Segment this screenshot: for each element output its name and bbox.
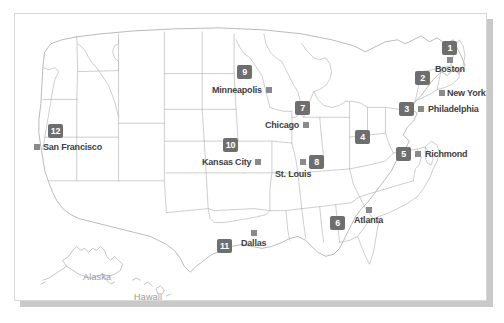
marker-badge-5[interactable]: 5 bbox=[396, 147, 411, 161]
map-marker-chicago[interactable]: 7 bbox=[295, 101, 310, 115]
map-marker-dallas-point[interactable]: Dallas bbox=[241, 230, 266, 248]
map-figure-page: 1 Boston 2 New York 3 Philadelphia 4 bbox=[0, 0, 504, 323]
map-figure-frame: 1 Boston 2 New York 3 Philadelphia 4 bbox=[14, 13, 487, 301]
map-marker-san-francisco[interactable]: 12 bbox=[48, 124, 63, 138]
city-label-st-louis: St. Louis bbox=[275, 169, 311, 179]
marker-dot-philadelphia bbox=[418, 106, 424, 112]
map-marker-philadelphia[interactable]: 3 Philadelphia bbox=[399, 102, 479, 116]
city-label-richmond: Richmond bbox=[425, 149, 467, 159]
marker-badge-6[interactable]: 6 bbox=[330, 216, 345, 230]
inset-label-alaska: Alaska bbox=[83, 272, 111, 282]
city-label-kansas-city: Kansas City bbox=[202, 157, 251, 167]
map-marker-4[interactable]: 4 bbox=[355, 130, 370, 144]
map-marker-minneapolis[interactable]: 9 bbox=[237, 65, 252, 79]
marker-dot-atlanta bbox=[366, 207, 372, 213]
marker-dot-san-francisco bbox=[34, 144, 40, 150]
city-label-new-york: New York bbox=[447, 88, 486, 98]
marker-badge-3[interactable]: 3 bbox=[399, 102, 414, 116]
marker-badge-11[interactable]: 11 bbox=[217, 239, 232, 253]
marker-badge-7[interactable]: 7 bbox=[295, 101, 310, 115]
marker-dot-new-york bbox=[439, 90, 445, 96]
map-marker-atlanta-point[interactable]: Atlanta bbox=[354, 207, 383, 225]
map-marker-dallas[interactable]: 11 bbox=[217, 239, 232, 253]
marker-dot-boston bbox=[447, 57, 453, 63]
city-label-san-francisco: San Francisco bbox=[43, 142, 102, 152]
marker-badge-1[interactable]: 1 bbox=[442, 41, 457, 55]
city-label-minneapolis: Minneapolis bbox=[212, 85, 262, 95]
city-label-dallas: Dallas bbox=[241, 238, 266, 248]
inset-label-hawaii: Hawaii bbox=[134, 292, 162, 301]
marker-badge-2[interactable]: 2 bbox=[415, 71, 430, 85]
map-marker-kansas-city[interactable]: 10 bbox=[223, 138, 238, 152]
map-marker-chicago-point[interactable]: Chicago bbox=[265, 120, 309, 130]
map-marker-richmond[interactable]: 5 Richmond bbox=[396, 147, 467, 161]
marker-dot-dallas bbox=[251, 230, 257, 236]
city-label-atlanta: Atlanta bbox=[354, 215, 383, 225]
marker-dot-st-louis bbox=[300, 159, 306, 165]
map-marker-boston[interactable]: 1 Boston bbox=[435, 41, 465, 74]
map-marker-san-francisco-point[interactable]: San Francisco bbox=[34, 142, 102, 152]
city-label-philadelphia: Philadelphia bbox=[428, 104, 479, 114]
map-marker-new-york-point[interactable]: New York bbox=[439, 88, 486, 98]
marker-dot-richmond bbox=[415, 151, 421, 157]
map-marker-new-york[interactable]: 2 bbox=[415, 71, 430, 85]
marker-badge-10[interactable]: 10 bbox=[223, 138, 238, 152]
map-marker-kansas-city-point[interactable]: Kansas City bbox=[202, 157, 261, 167]
map-marker-st-louis-label: St. Louis bbox=[275, 169, 311, 179]
marker-badge-8[interactable]: 8 bbox=[309, 155, 324, 169]
marker-badge-4[interactable]: 4 bbox=[355, 130, 370, 144]
marker-dot-chicago bbox=[303, 122, 309, 128]
map-marker-st-louis[interactable]: 8 bbox=[300, 155, 324, 169]
marker-badge-9[interactable]: 9 bbox=[237, 65, 252, 79]
map-marker-atlanta[interactable]: 6 bbox=[330, 216, 345, 230]
map-marker-minneapolis-point[interactable]: Minneapolis bbox=[212, 85, 272, 95]
city-label-chicago: Chicago bbox=[265, 120, 299, 130]
marker-dot-minneapolis bbox=[266, 87, 272, 93]
city-label-boston: Boston bbox=[435, 64, 465, 74]
marker-badge-12[interactable]: 12 bbox=[48, 124, 63, 138]
marker-dot-kansas-city bbox=[255, 159, 261, 165]
